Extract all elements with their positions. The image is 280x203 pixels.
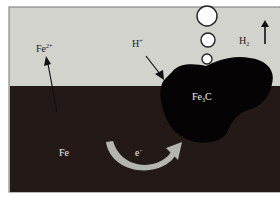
fe-metal-label: Fe xyxy=(59,147,70,158)
h2-bubble-large xyxy=(197,6,217,26)
galvanic-corrosion-diagram: Fe2+ H+ H2 Fe3C Fe e− xyxy=(0,0,280,203)
h2-bubble-medium xyxy=(201,33,215,47)
h2-bubble-small xyxy=(202,54,212,64)
